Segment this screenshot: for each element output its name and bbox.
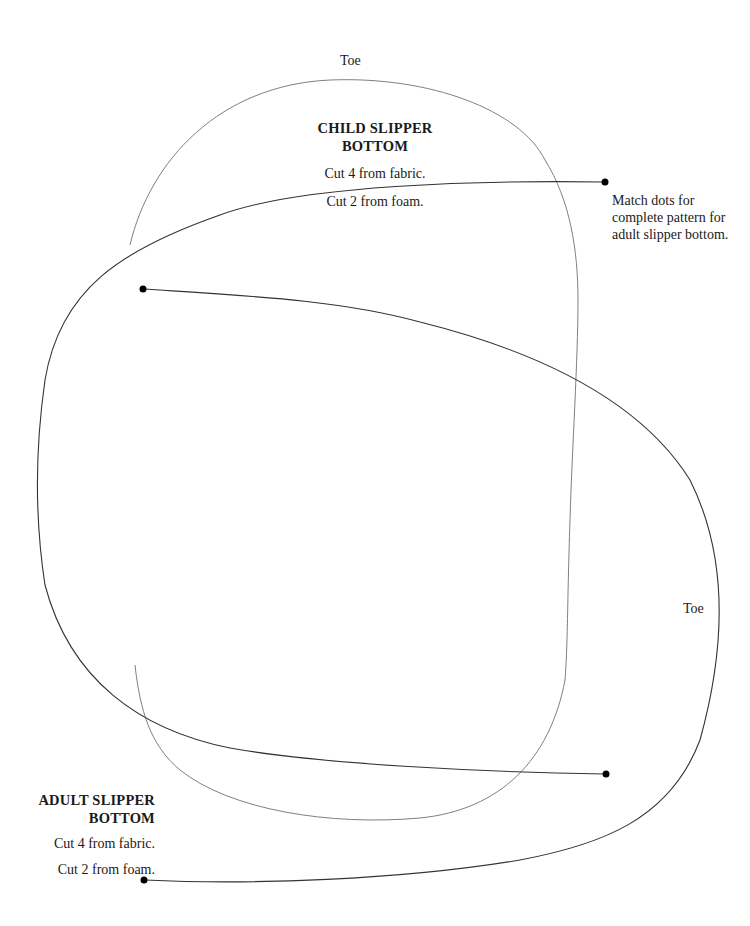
adult-slipper-outline (38, 182, 606, 774)
match-dot-top-right (602, 179, 609, 186)
adult-slipper-outline-2 (143, 289, 719, 882)
match-dot-bottom-right (603, 771, 610, 778)
adult-title-line2: BOTTOM (10, 809, 155, 827)
match-dot-left (140, 286, 147, 293)
child-slipper-block: CHILD SLIPPER BOTTOM Cut 4 from fabric. … (300, 119, 450, 211)
adult-toe-label: Toe (683, 600, 704, 618)
child-instruction-foam: Cut 2 from foam. (300, 193, 450, 211)
adult-title-line1: ADULT SLIPPER (10, 791, 155, 809)
child-title-line2: BOTTOM (300, 137, 450, 155)
child-instruction-fabric: Cut 4 from fabric. (300, 165, 450, 183)
adult-instruction-fabric: Cut 4 from fabric. (10, 835, 155, 853)
match-dots-note: Match dots for complete pattern for adul… (612, 192, 742, 243)
adult-instruction-foam: Cut 2 from foam. (10, 861, 155, 879)
adult-slipper-block: ADULT SLIPPER BOTTOM Cut 4 from fabric. … (10, 791, 155, 879)
child-title-line1: CHILD SLIPPER (300, 119, 450, 137)
child-toe-label: Toe (340, 52, 361, 70)
